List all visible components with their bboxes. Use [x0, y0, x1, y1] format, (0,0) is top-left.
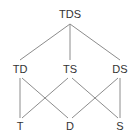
node-label-tds: TDS [57, 8, 83, 21]
node-label-ds: DS [110, 63, 129, 76]
node-label-d: D [64, 120, 76, 133]
lattice-diagram: TDS TD TS DS T D S [0, 0, 140, 138]
node-label-t: T [15, 120, 26, 133]
node-label-td: TD [11, 63, 30, 76]
edge-tds-ds [70, 24, 120, 60]
node-label-ts: TS [61, 63, 79, 76]
edge-tds-td [20, 24, 70, 60]
node-label-s: S [114, 120, 125, 133]
